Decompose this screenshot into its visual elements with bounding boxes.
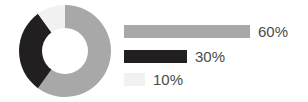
- donut-svg: [18, 4, 112, 98]
- legend-item-60[interactable]: 60%: [124, 20, 288, 42]
- donut-hole: [42, 28, 88, 74]
- chart-legend: 60% 30% 10%: [124, 0, 308, 102]
- legend-swatch-bar-60: [124, 25, 250, 38]
- legend-item-10[interactable]: 10%: [124, 68, 183, 90]
- legend-label-30: 30%: [195, 49, 225, 64]
- legend-item-30[interactable]: 30%: [124, 45, 225, 67]
- legend-label-10: 10%: [153, 72, 183, 87]
- legend-swatch-bar-30: [124, 50, 187, 63]
- donut-chart-graphic: [18, 4, 112, 98]
- legend-swatch-bar-10: [124, 73, 145, 86]
- legend-label-60: 60%: [258, 24, 288, 39]
- donut-chart-figure: 60% 30% 10%: [0, 0, 308, 102]
